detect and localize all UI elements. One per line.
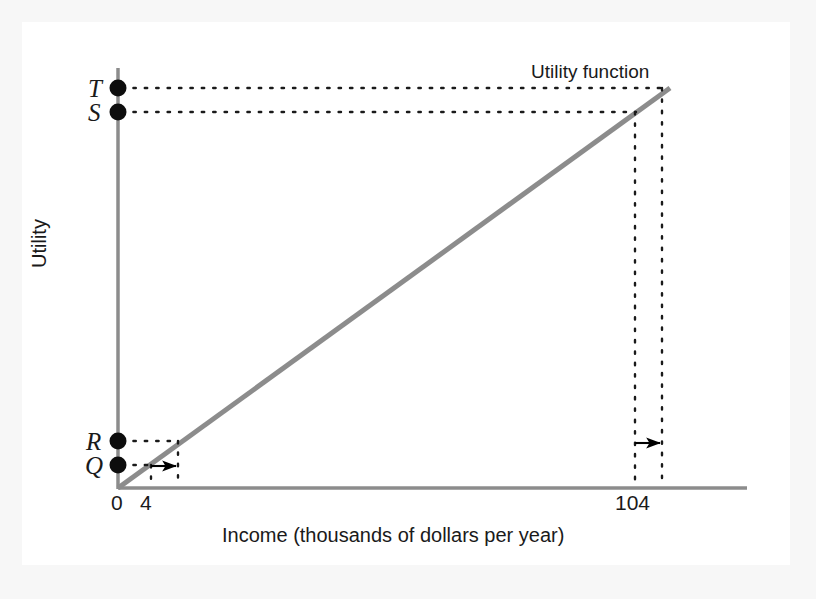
point-label-r: R [86, 429, 101, 454]
x-tick-label-0: 0 [111, 492, 123, 513]
point-marker-r [110, 433, 127, 450]
series-label-utility-function: Utility function [531, 62, 649, 81]
x-tick-label-4: 4 [140, 492, 152, 513]
point-label-q: Q [85, 453, 103, 478]
point-marker-t [110, 80, 127, 97]
x-axis-title: Income (thousands of dollars per year) [222, 525, 564, 545]
point-marker-s [110, 104, 127, 121]
point-marker-q [110, 457, 127, 474]
point-label-t: T [88, 76, 102, 101]
utility-function-line [118, 88, 670, 488]
figure-container: T S R Q 0 4 104 Utility function Income … [0, 0, 816, 599]
point-label-s: S [88, 100, 101, 125]
y-axis-title: Utility [28, 219, 51, 268]
x-tick-label-104: 104 [615, 492, 650, 513]
